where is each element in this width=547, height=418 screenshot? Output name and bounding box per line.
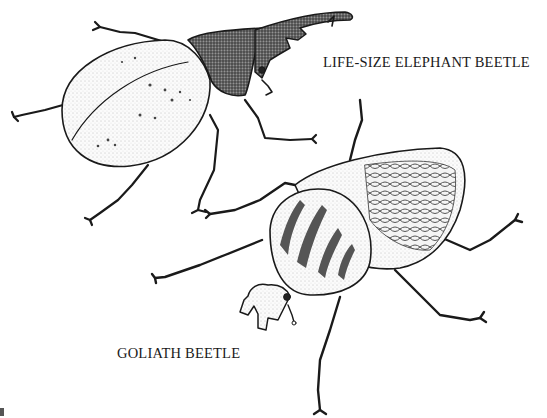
elephant-beetle-label: LIFE-SIZE ELEPHANT BEETLE [323,54,530,71]
scan-corner-mark [0,408,4,416]
illustration-plate: LIFE-SIZE ELEPHANT BEETLE GOLIATH BEETLE [0,0,547,418]
elephant-beetle-elytra [62,40,210,167]
goliath-beetle-head [240,284,290,330]
goliath-beetle [152,100,522,414]
goliath-beetle-label: GOLIATH BEETLE [117,345,240,362]
